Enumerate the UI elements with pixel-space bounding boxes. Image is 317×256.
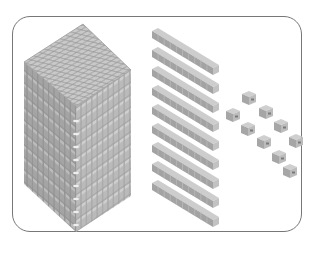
unit-cube <box>283 164 297 178</box>
unit-cube <box>289 134 303 148</box>
thousand-block <box>24 24 131 232</box>
unit-cube <box>257 135 271 149</box>
unit-cube <box>242 91 256 105</box>
units-group <box>226 91 303 178</box>
base-ten-blocks-illustration <box>0 0 317 256</box>
unit-cube <box>241 122 255 136</box>
unit-cube <box>259 105 273 119</box>
unit-cube <box>274 119 288 133</box>
unit-cube <box>226 108 240 122</box>
rods-group <box>152 28 219 227</box>
unit-cube <box>272 150 286 164</box>
